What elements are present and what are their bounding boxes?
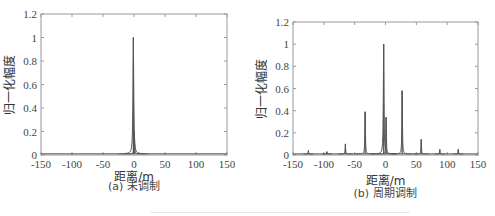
panel-caption: (b) 周期调制 (353, 187, 416, 200)
x-tick-label: 0 (131, 158, 137, 170)
x-tick-label: 0 (383, 158, 389, 170)
x-tick-label: 100 (188, 158, 205, 170)
y-tick-label: 0.4 (23, 102, 37, 114)
y-tick-label: 1.2 (275, 16, 289, 28)
panel-a: -150-100-5005010015000.20.40.60.811.2距离/… (2, 8, 236, 193)
panel-b: -150-100-5005010015000.20.40.60.811.2距离/… (254, 16, 487, 200)
x-tick-label: 50 (411, 158, 423, 170)
x-tick-label: 150 (470, 158, 487, 170)
x-tick-label: -100 (62, 158, 83, 170)
y-tick-label: 1 (284, 38, 290, 50)
x-tick-label: 50 (160, 158, 172, 170)
y-tick-label: 1 (32, 32, 38, 44)
x-tick-label: 150 (219, 158, 236, 170)
y-tick-label: 0.4 (275, 105, 289, 117)
figure-caption-cropped (150, 212, 410, 216)
x-tick-label: -50 (96, 158, 111, 170)
y-tick-label: 0.2 (275, 127, 289, 139)
y-tick-label: 0 (284, 149, 290, 161)
x-axis-title: 距离/m (366, 173, 406, 188)
y-tick-label: 0.6 (23, 79, 37, 91)
panel-caption: (a) 未调制 (108, 180, 160, 193)
x-tick-label: -100 (314, 158, 335, 170)
y-tick-label: 1.2 (23, 8, 37, 20)
y-tick-label: 0.8 (23, 55, 37, 67)
y-tick-label: 0 (32, 149, 38, 161)
y-tick-label: 0.6 (275, 83, 289, 95)
y-tick-label: 0.8 (275, 60, 289, 72)
figure: -150-100-5005010015000.20.40.60.811.2距离/… (0, 0, 495, 216)
y-axis-title: 归一化幅度 (2, 55, 17, 115)
x-tick-label: 100 (439, 158, 456, 170)
x-tick-label: -50 (347, 158, 362, 170)
y-axis-title: 归一化幅度 (254, 59, 269, 119)
y-tick-label: 0.2 (23, 126, 37, 138)
